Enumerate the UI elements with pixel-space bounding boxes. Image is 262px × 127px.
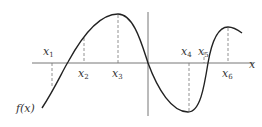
label-x2: x2 bbox=[78, 67, 89, 81]
label-x5: x5 bbox=[198, 45, 209, 59]
label-x4: x4 bbox=[181, 45, 192, 59]
label-x6: x6 bbox=[222, 67, 233, 81]
function-label: f(x) bbox=[15, 102, 35, 115]
axis-label: x bbox=[249, 58, 256, 71]
label-x3: x3 bbox=[112, 67, 123, 81]
function-diagram: f(x) x x1 x2 x3 x4 x5 x6 bbox=[0, 0, 262, 127]
label-x1: x1 bbox=[43, 45, 54, 59]
